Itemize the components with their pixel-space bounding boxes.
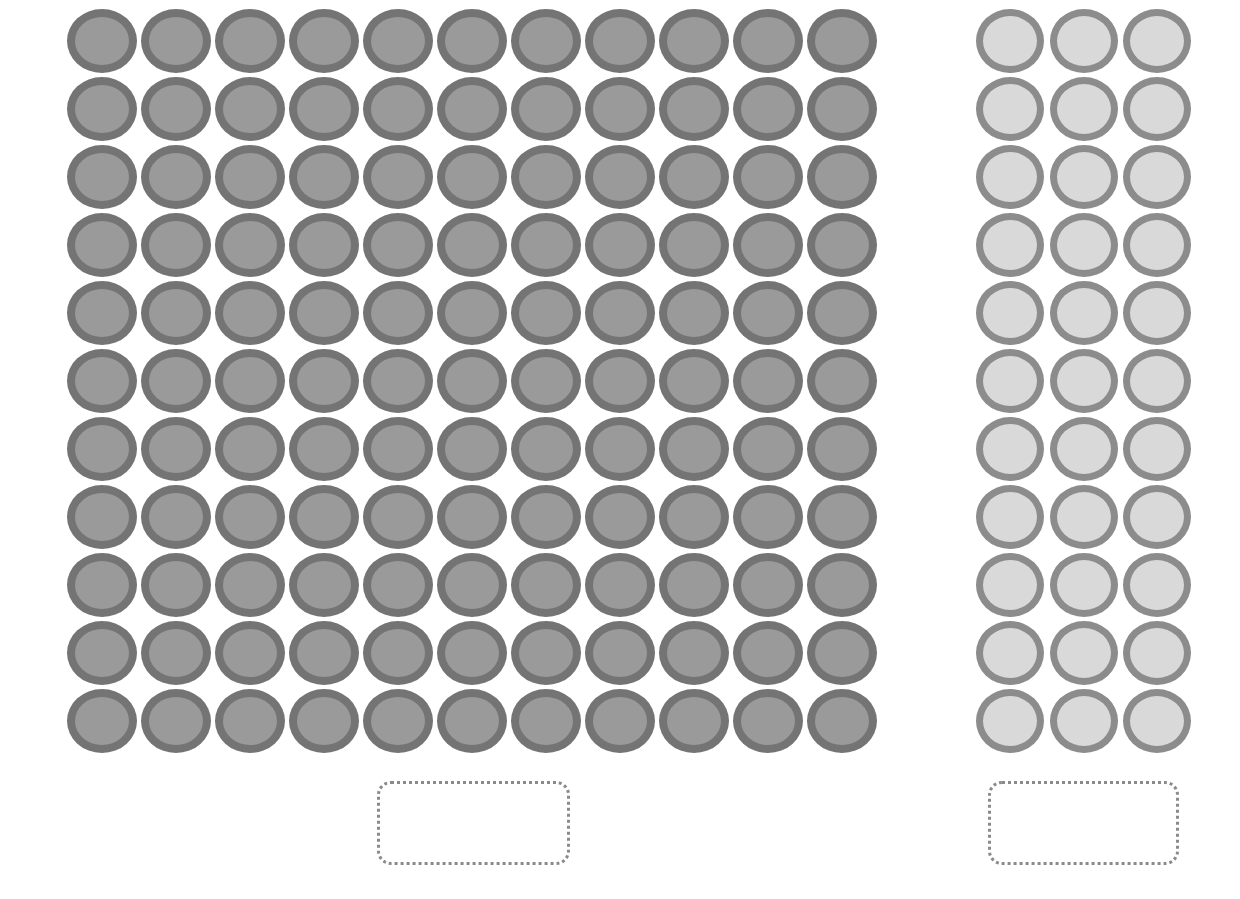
counter-circle <box>289 77 359 141</box>
counter-circle <box>215 417 285 481</box>
counter-circle <box>585 213 655 277</box>
counter-circle <box>437 349 507 413</box>
counter-circle <box>659 689 729 753</box>
counter-circle <box>67 621 137 685</box>
counter-circle <box>141 77 211 141</box>
counter-circle <box>807 9 877 73</box>
counter-circle <box>215 621 285 685</box>
counter-circle <box>437 417 507 481</box>
counter-circle <box>141 621 211 685</box>
counter-circle <box>215 553 285 617</box>
counter-circle <box>437 689 507 753</box>
counter-circle <box>807 77 877 141</box>
counter-circle <box>807 349 877 413</box>
counter-circle <box>67 77 137 141</box>
counter-circle <box>141 281 211 345</box>
counter-circle <box>659 145 729 209</box>
counter-circle <box>437 621 507 685</box>
counter-circle <box>585 485 655 549</box>
counter-circle <box>67 689 137 753</box>
counter-circle <box>363 553 433 617</box>
counter-circle <box>807 281 877 345</box>
counter-circle <box>363 349 433 413</box>
counter-circle <box>733 417 803 481</box>
counter-circle <box>807 621 877 685</box>
counter-circle <box>363 213 433 277</box>
counter-circle <box>511 485 581 549</box>
counter-circle <box>659 417 729 481</box>
counter-circle <box>141 689 211 753</box>
counter-circle <box>363 689 433 753</box>
counter-circle <box>511 213 581 277</box>
counter-circle <box>1050 281 1118 345</box>
counter-circle <box>141 417 211 481</box>
counter-circle <box>733 281 803 345</box>
counter-circle <box>733 77 803 141</box>
counter-circle <box>141 9 211 73</box>
counter-circle <box>437 145 507 209</box>
dark-counter-grid <box>67 9 877 753</box>
counter-circle <box>215 689 285 753</box>
counter-circle <box>976 9 1044 73</box>
counter-circle <box>289 621 359 685</box>
counter-circle <box>659 621 729 685</box>
counter-circle <box>289 9 359 73</box>
counter-circle <box>659 281 729 345</box>
counter-circle <box>363 417 433 481</box>
counter-circle <box>289 349 359 413</box>
counter-circle <box>1050 145 1118 209</box>
counter-circle <box>807 417 877 481</box>
counter-circle <box>215 145 285 209</box>
answer-box-right[interactable] <box>988 781 1179 865</box>
counter-circle <box>733 553 803 617</box>
counter-circle <box>733 485 803 549</box>
counter-circle <box>976 213 1044 277</box>
counter-circle <box>67 213 137 277</box>
counter-circle <box>1050 213 1118 277</box>
counter-circle <box>659 349 729 413</box>
counter-circle <box>363 485 433 549</box>
counter-circle <box>511 689 581 753</box>
counter-circle <box>437 485 507 549</box>
counter-circle <box>976 553 1044 617</box>
counter-circle <box>437 9 507 73</box>
counter-circle <box>1123 553 1191 617</box>
counter-circle <box>141 553 211 617</box>
counter-circle <box>215 349 285 413</box>
counter-circle <box>289 213 359 277</box>
counter-circle <box>67 9 137 73</box>
counter-circle <box>67 417 137 481</box>
counter-circle <box>585 281 655 345</box>
counter-circle <box>1123 9 1191 73</box>
counter-circle <box>67 145 137 209</box>
counter-circle <box>976 281 1044 345</box>
counter-circle <box>976 417 1044 481</box>
counter-circle <box>659 485 729 549</box>
counter-circle <box>1050 553 1118 617</box>
counter-circle <box>141 349 211 413</box>
counter-circle <box>1050 485 1118 549</box>
counter-circle <box>807 689 877 753</box>
counter-circle <box>363 77 433 141</box>
counter-circle <box>733 9 803 73</box>
counter-circle <box>289 553 359 617</box>
counter-circle <box>1050 621 1118 685</box>
counter-circle <box>1123 349 1191 413</box>
counter-circle <box>585 77 655 141</box>
counter-circle <box>437 281 507 345</box>
counter-circle <box>1123 485 1191 549</box>
answer-box-left[interactable] <box>377 781 570 865</box>
counter-circle <box>976 621 1044 685</box>
counter-circle <box>1050 689 1118 753</box>
light-counter-grid <box>976 9 1191 753</box>
counter-circle <box>585 553 655 617</box>
counter-circle <box>659 77 729 141</box>
counter-circle <box>511 349 581 413</box>
counter-circle <box>733 145 803 209</box>
counter-circle <box>141 485 211 549</box>
counter-circle <box>976 485 1044 549</box>
counter-circle <box>1123 689 1191 753</box>
counter-circle <box>659 553 729 617</box>
counter-circle <box>1123 621 1191 685</box>
counter-circle <box>511 621 581 685</box>
